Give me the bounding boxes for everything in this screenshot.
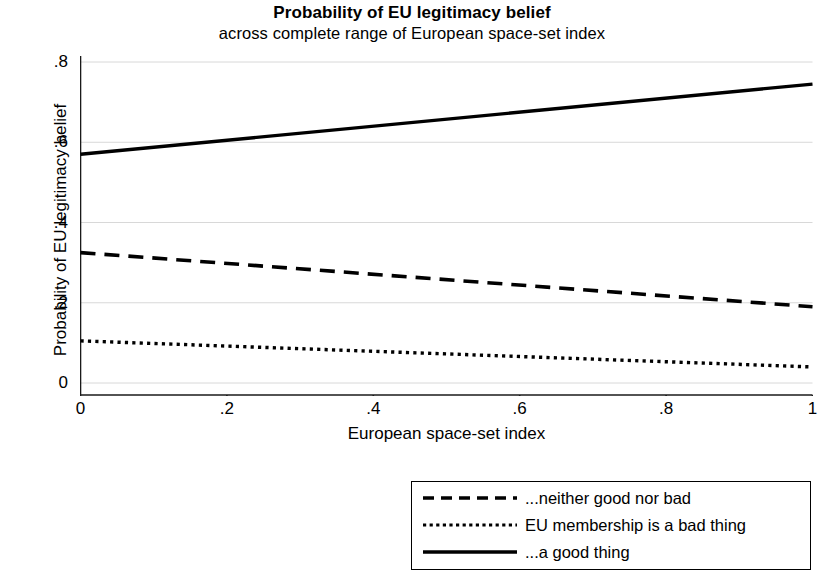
x-tick-label-0: 0 bbox=[61, 400, 101, 417]
x-tick-label-3: .6 bbox=[500, 400, 540, 417]
plot-area bbox=[80, 56, 813, 396]
series-line-2 bbox=[81, 341, 813, 367]
legend-label-bad-thing: EU membership is a bad thing bbox=[519, 516, 746, 535]
x-tick-label-4: .8 bbox=[646, 400, 686, 417]
legend-key-dashed-icon bbox=[421, 489, 519, 507]
legend-label-good-thing: ...a good thing bbox=[519, 543, 630, 562]
legend-key-dotted-icon bbox=[421, 516, 519, 534]
data-series bbox=[81, 84, 813, 367]
legend-box: ...neither good nor bad EU membership is… bbox=[411, 481, 811, 570]
x-tick-label-1: .2 bbox=[207, 400, 247, 417]
legend-label-neither-good-nor-bad: ...neither good nor bad bbox=[519, 489, 691, 508]
series-line-1 bbox=[81, 253, 813, 307]
legend-entry-good-thing: ...a good thing bbox=[421, 538, 630, 566]
gridlines bbox=[81, 62, 813, 383]
chart-figure: Probability of EU legitimacy belief acro… bbox=[0, 0, 824, 579]
legend-key-solid-icon bbox=[421, 543, 519, 561]
axes bbox=[80, 56, 813, 396]
x-tick-label-2: .4 bbox=[353, 400, 393, 417]
x-tick-label-5: 1 bbox=[793, 400, 824, 417]
series-line-0 bbox=[81, 84, 813, 154]
legend-entry-bad-thing: EU membership is a bad thing bbox=[421, 511, 746, 539]
legend-entry-neither-good-nor-bad: ...neither good nor bad bbox=[421, 484, 691, 512]
plot-canvas bbox=[80, 56, 813, 396]
